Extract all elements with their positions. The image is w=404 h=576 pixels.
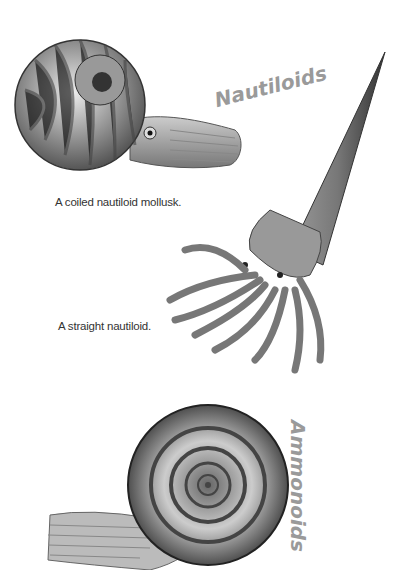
ammonoids-title: Ammonoids <box>286 420 310 552</box>
straight-nautiloid-illustration <box>145 50 395 380</box>
straight-nautiloid-caption: A straight nautiloid. <box>58 320 151 332</box>
ammonoid-illustration <box>40 400 300 570</box>
